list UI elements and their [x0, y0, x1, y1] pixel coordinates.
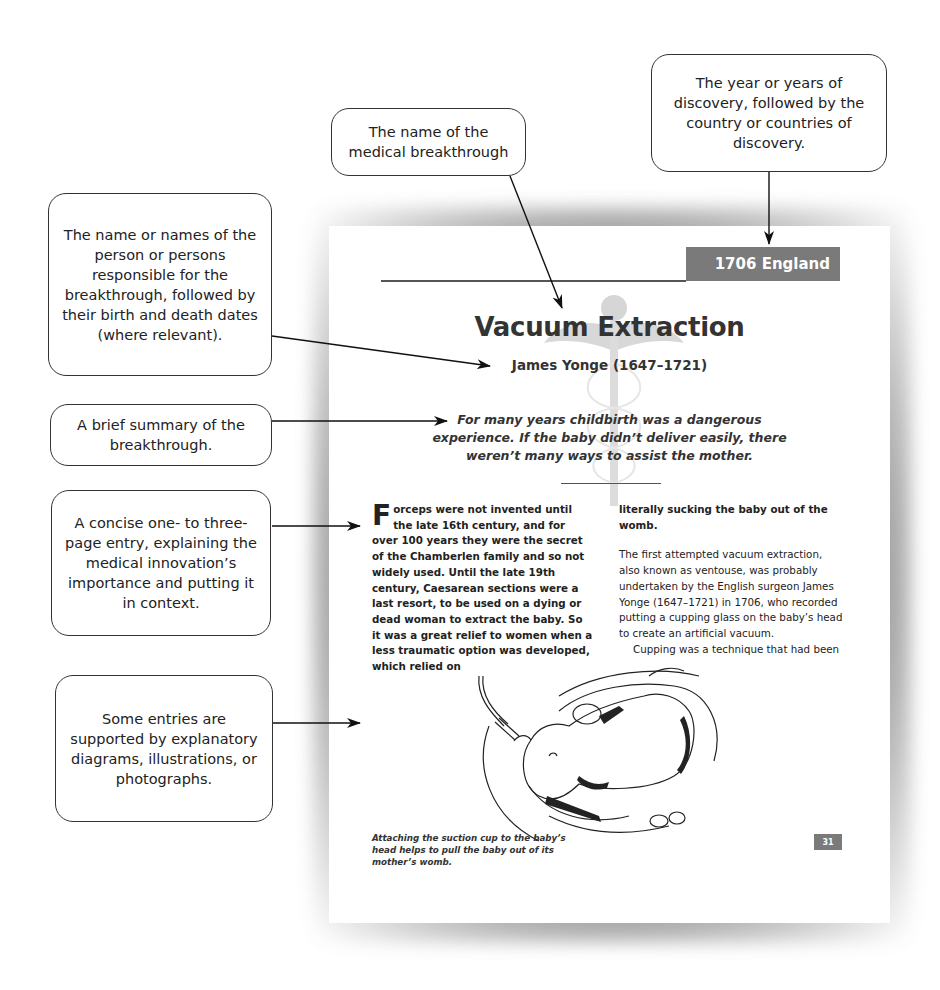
- callout-entry: A concise one- to three-page entry, expl…: [51, 490, 271, 636]
- right-column-continuation: literally sucking the baby out of the wo…: [619, 502, 844, 533]
- callout-persons: The name or names of the person or perso…: [48, 193, 272, 376]
- vacuum-extraction-diagram-illustration: [459, 666, 719, 846]
- callout-summary: A brief summary of the breakthrough.: [50, 404, 272, 466]
- person-name-dates: James Yonge (1647–1721): [329, 357, 890, 373]
- left-column-text: orceps were not invented until the late …: [372, 503, 592, 672]
- callout-summary-text: A brief summary of the breakthrough.: [59, 415, 263, 455]
- callout-entry-text: A concise one- to three-page entry, expl…: [60, 513, 262, 613]
- drop-cap: F: [372, 503, 391, 529]
- body-column-left: Forceps were not invented until the late…: [372, 502, 594, 675]
- callout-illustrations-text: Some entries are supported by explanator…: [64, 709, 264, 789]
- summary-text: For many years childbirth was a dangerou…: [429, 411, 790, 465]
- diagram-caption: Attaching the suction cup to the baby’s …: [372, 832, 572, 868]
- right-column-paragraph-2: Cupping was a technique that had been: [619, 642, 844, 658]
- callout-breakthrough-name: The name of the medical breakthrough: [331, 108, 526, 176]
- callout-year-country-text: The year or years of discovery, followed…: [660, 73, 878, 153]
- page-title: Vacuum Extraction: [329, 312, 890, 342]
- callout-illustrations: Some entries are supported by explanator…: [55, 675, 273, 822]
- page-number-text: 31: [822, 838, 833, 847]
- book-page: 1706 England Vacuum Extraction James Yon…: [329, 226, 890, 923]
- year-country-text: 1706 England: [715, 255, 830, 273]
- page-number: 31: [814, 834, 842, 850]
- body-column-right: literally sucking the baby out of the wo…: [619, 502, 844, 657]
- right-column-paragraph-1: The first attempted vacuum extraction, a…: [619, 547, 844, 641]
- callout-breakthrough-name-text: The name of the medical breakthrough: [340, 122, 517, 162]
- summary-divider: [561, 483, 661, 484]
- header-rule: [381, 280, 686, 282]
- callout-year-country: The year or years of discovery, followed…: [651, 54, 887, 172]
- callout-persons-text: The name or names of the person or perso…: [57, 225, 263, 345]
- year-country-tag: 1706 England: [686, 247, 840, 281]
